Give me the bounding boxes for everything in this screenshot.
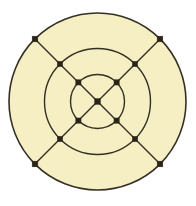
- node-outer-nw: [32, 36, 38, 42]
- node-inner-nw: [76, 80, 81, 85]
- node-inner-ne: [114, 80, 119, 85]
- node-center: [95, 99, 101, 105]
- node-middle-ne: [132, 61, 137, 66]
- node-inner-sw: [76, 118, 81, 123]
- diagram-canvas: [0, 0, 196, 206]
- node-middle-nw: [57, 61, 62, 66]
- node-middle-se: [132, 136, 137, 141]
- node-outer-sw: [32, 161, 38, 167]
- node-inner-se: [114, 118, 119, 123]
- concentric-circles-diagram: [0, 0, 196, 206]
- node-middle-sw: [57, 136, 62, 141]
- node-outer-ne: [157, 36, 163, 42]
- node-outer-se: [157, 161, 163, 167]
